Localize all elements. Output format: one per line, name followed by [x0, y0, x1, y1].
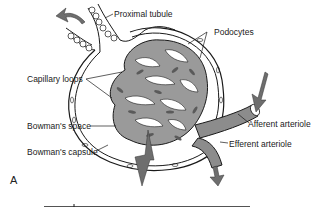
label-efferent-arteriole: Efferent arteriole	[229, 139, 292, 149]
label-podocytes: Podocytes	[214, 27, 254, 37]
capillary-tuft	[110, 40, 207, 145]
efferent-outflow-arrow	[210, 166, 224, 186]
efferent-arteriole	[192, 138, 222, 168]
diagram-artwork	[0, 0, 319, 207]
glomerulus-diagram: Proximal tubule Podocytes Capillary loop…	[0, 0, 319, 207]
label-afferent-arteriole: Afferent arteriole	[248, 119, 311, 129]
bottom-bar	[44, 204, 250, 207]
filtrate-flow-arrow	[56, 8, 85, 24]
label-bowmans-capsule: Bowman's capsule	[27, 147, 98, 157]
label-bowmans-space: Bowman's space	[27, 121, 91, 131]
label-capillary-loops: Capillary loops	[27, 74, 83, 84]
panel-label: A	[10, 174, 17, 186]
label-proximal-tubule: Proximal tubule	[114, 9, 173, 19]
